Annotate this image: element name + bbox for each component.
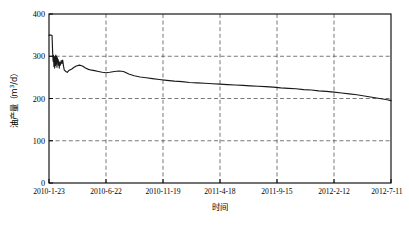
ytick-label-200: 200	[33, 95, 45, 104]
xtick-label-5: 2012-2-12	[318, 187, 350, 196]
ytick-label-100: 100	[33, 137, 45, 146]
xtick-label-4: 2011-9-15	[261, 187, 293, 196]
y-axis-title-main: 油产量（m3/d）	[9, 69, 19, 129]
xtick-label-1: 2010-6-22	[90, 187, 122, 196]
x-tick-marks	[49, 179, 391, 183]
xtick-label-0: 2010-1-23	[33, 187, 65, 196]
chart-svg: 400 300 200 100 0 2010-1-23 2010-6-22 20…	[0, 0, 409, 226]
y-tick-labels: 400 300 200 100 0	[33, 10, 45, 188]
oil-production-chart: 400 300 200 100 0 2010-1-23 2010-6-22 20…	[0, 0, 409, 226]
y-axis-title: 油产量（m3/d）	[9, 69, 19, 129]
ytick-label-400: 400	[33, 10, 45, 19]
y-axis-title-part1: 油产量（m	[9, 88, 19, 128]
y-axis-title-part2: /d）	[9, 69, 19, 85]
x-axis-title: 时间	[212, 202, 228, 212]
xtick-label-2: 2010-11-19	[145, 187, 180, 196]
xtick-label-3: 2011-4-18	[204, 187, 236, 196]
x-tick-labels: 2010-1-23 2010-6-22 2010-11-19 2011-4-18…	[33, 187, 403, 196]
xtick-label-6: 2012-7-11	[371, 187, 403, 196]
ytick-label-300: 300	[33, 52, 45, 61]
